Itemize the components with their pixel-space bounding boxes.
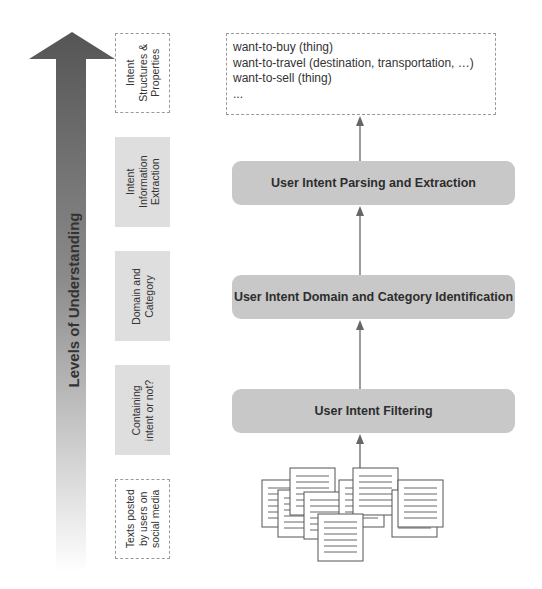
document-stack-icon [260, 462, 470, 572]
